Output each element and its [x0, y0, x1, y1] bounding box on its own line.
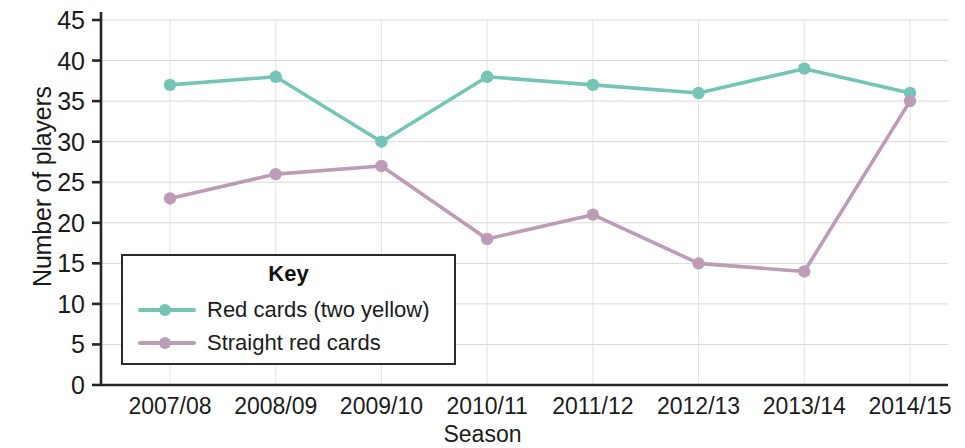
y-axis-ticks: [92, 20, 101, 385]
x-axis-tick-labels: 2007/082008/092009/102010/112011/122012/…: [128, 393, 951, 419]
x-tick-label: 2013/14: [763, 393, 846, 419]
data-point: [375, 160, 387, 172]
y-tick-label: 20: [57, 209, 85, 237]
y-tick-label: 10: [57, 290, 85, 318]
y-tick-label: 40: [57, 47, 85, 75]
y-tick-label: 30: [57, 128, 85, 156]
legend-swatch-icon-series-1: [138, 301, 196, 319]
series-line-2: [170, 101, 910, 271]
x-tick-label: 2010/11: [446, 393, 527, 419]
x-tick-label: 2014/15: [868, 393, 951, 419]
data-point: [692, 87, 704, 99]
legend-label-series-1: Red cards (two yellow): [207, 297, 430, 323]
data-point: [164, 192, 176, 204]
x-tick-label: 2009/10: [340, 393, 423, 419]
legend-title: Key: [123, 261, 454, 287]
data-point: [587, 208, 599, 220]
data-series-2: [164, 95, 916, 278]
data-point: [481, 71, 493, 83]
x-tick-label: 2007/08: [128, 393, 211, 419]
data-point: [164, 79, 176, 91]
x-tick-label: 2012/13: [657, 393, 740, 419]
legend-label-series-2: Straight red cards: [207, 330, 381, 356]
y-tick-label: 15: [57, 249, 85, 277]
line-chart-plot: 051015202530354045 2007/082008/092009/10…: [0, 0, 965, 448]
y-tick-label: 0: [71, 371, 85, 399]
data-point: [270, 168, 282, 180]
x-tick-label: 2011/12: [552, 393, 633, 419]
data-series-layer: [164, 62, 916, 277]
x-tick-label: 2008/09: [234, 393, 317, 419]
data-point: [904, 95, 916, 107]
chart-container: Number of players Season 051015202530354…: [0, 0, 965, 448]
chart-legend: Key Red cards (two yellow) Straight red …: [121, 254, 456, 365]
data-series-1: [164, 62, 916, 147]
data-point: [587, 79, 599, 91]
legend-item-red-cards-two-yellow: Red cards (two yellow): [123, 293, 454, 326]
data-point: [798, 62, 810, 74]
data-point: [692, 257, 704, 269]
legend-item-straight-red-cards: Straight red cards: [123, 326, 454, 359]
y-axis-tick-labels: 051015202530354045: [57, 6, 85, 399]
y-tick-label: 35: [57, 87, 85, 115]
y-tick-label: 25: [57, 168, 85, 196]
y-tick-label: 5: [71, 330, 85, 358]
data-point: [375, 135, 387, 147]
data-point: [798, 265, 810, 277]
data-point: [481, 233, 493, 245]
legend-swatch-icon-series-2: [138, 334, 196, 352]
y-tick-label: 45: [57, 6, 85, 34]
data-point: [270, 71, 282, 83]
